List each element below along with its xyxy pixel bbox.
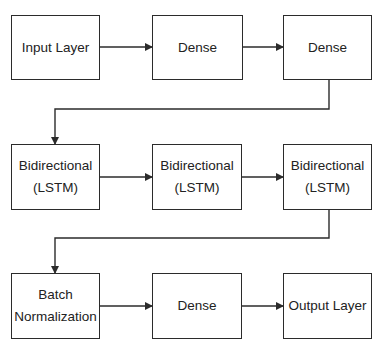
node-bidirectional-lstm-2: Bidirectional (LSTM) <box>152 144 242 210</box>
node-output-layer: Output Layer <box>283 273 372 339</box>
node-label-line1: Bidirectional <box>19 155 93 177</box>
node-bidirectional-lstm-1: Bidirectional (LSTM) <box>11 144 100 210</box>
node-dense-1: Dense <box>152 15 243 80</box>
node-label: Input Layer <box>22 37 90 59</box>
node-bidirectional-lstm-3: Bidirectional (LSTM) <box>283 144 372 210</box>
node-label-line2: (LSTM) <box>19 177 93 199</box>
node-label-line2: Normalization <box>14 306 97 328</box>
node-dense-3: Dense <box>152 273 242 339</box>
node-label-line2: (LSTM) <box>160 177 234 199</box>
node-input-layer: Input Layer <box>11 15 100 80</box>
node-dense-2: Dense <box>283 15 372 80</box>
node-label: Dense <box>178 37 217 59</box>
node-label-line2: (LSTM) <box>291 177 365 199</box>
arrow-bilstm-to-batchnorm <box>55 210 329 273</box>
node-label: Output Layer <box>288 295 366 317</box>
node-label-line1: Batch <box>14 284 97 306</box>
node-batch-normalization: Batch Normalization <box>11 273 100 339</box>
node-label-line1: Bidirectional <box>291 155 365 177</box>
node-label: Dense <box>308 37 347 59</box>
node-label: Dense <box>177 295 216 317</box>
model-architecture-diagram: Input Layer Dense Dense Bidirectional (L… <box>0 0 381 351</box>
arrow-dense-to-bilstm <box>55 80 329 144</box>
node-label-line1: Bidirectional <box>160 155 234 177</box>
